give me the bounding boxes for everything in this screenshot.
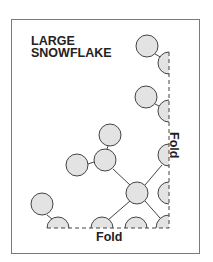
circles [31,35,182,241]
snowflake-pattern [0,0,213,262]
half-circles [47,52,182,241]
circle [135,86,157,108]
circle [31,193,53,215]
circle [99,124,121,146]
circle [94,149,116,171]
fold-label-right: Fold [167,132,181,158]
circle [126,182,148,204]
fold-label-bottom: Fold [96,230,122,244]
circle [66,154,88,176]
circle [136,35,158,57]
